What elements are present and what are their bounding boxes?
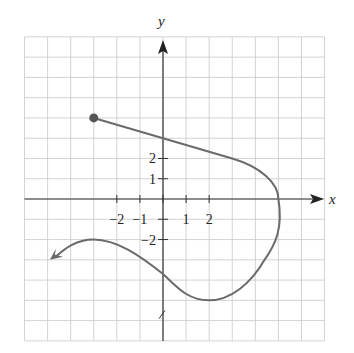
y-tick-label: 2 [149, 151, 156, 166]
x-axis-label: x [328, 191, 336, 207]
x-tick-label: −2 [109, 212, 124, 227]
axes [25, 40, 324, 341]
x-tick-label: 2 [206, 212, 213, 227]
y-tick-label: 1 [149, 172, 156, 187]
start-point-dot [89, 113, 98, 122]
y-axis-label: y [156, 13, 165, 29]
x-tick-label: −1 [132, 212, 147, 227]
grid-lines [25, 37, 325, 341]
function-curve [50, 113, 280, 300]
y-tick-label: −2 [141, 233, 156, 248]
curve-path [57, 118, 280, 300]
curve-end-arrow-icon [50, 249, 63, 260]
x-tick-label: 1 [183, 212, 190, 227]
y-tick [159, 310, 165, 318]
graph: x y −2−11221−2 [0, 0, 354, 353]
